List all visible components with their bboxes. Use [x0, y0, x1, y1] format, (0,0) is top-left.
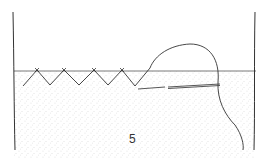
right-border-line [254, 12, 255, 150]
figure-number-label: 5 [129, 132, 136, 146]
